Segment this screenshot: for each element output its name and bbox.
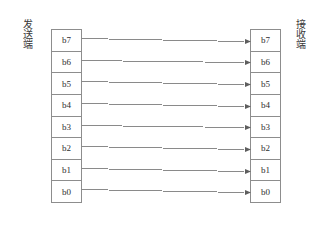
connection-line bbox=[81, 82, 244, 85]
connection-line bbox=[81, 147, 244, 150]
connection-line bbox=[81, 126, 244, 128]
receiver-bit-cell: b3 bbox=[251, 117, 280, 139]
sender-bit-cell: b5 bbox=[52, 73, 81, 95]
receiver-bit-cell: b6 bbox=[251, 52, 280, 74]
receiver-bit-cell: b4 bbox=[251, 95, 280, 117]
sender-bit-cell: b2 bbox=[52, 138, 81, 160]
diagram-canvas: 发送端 接收端 b7 b6 b5 b4 b3 b2 b1 b0 b7 b6 b5… bbox=[0, 0, 327, 234]
sender-bit-cell: b6 bbox=[52, 52, 81, 74]
sender-bit-column: b7 b6 b5 b4 b3 b2 b1 b0 bbox=[51, 29, 82, 203]
receiver-bit-cell: b7 bbox=[251, 30, 280, 52]
receiver-bit-cell: b2 bbox=[251, 138, 280, 160]
receiver-boundary-box bbox=[0, 206, 75, 234]
receiver-bit-cell: b1 bbox=[251, 160, 280, 182]
receiver-bit-column: b7 b6 b5 b4 b3 b2 b1 b0 bbox=[250, 29, 281, 203]
connection-line bbox=[81, 190, 244, 193]
connection-line bbox=[81, 61, 244, 63]
sender-bit-cell: b7 bbox=[52, 30, 81, 52]
sender-bit-cell: b1 bbox=[52, 160, 81, 182]
receiver-label: 接收端 bbox=[294, 19, 305, 49]
connection-line bbox=[81, 104, 244, 107]
sender-bit-cell: b0 bbox=[52, 181, 81, 202]
receiver-bit-cell: b0 bbox=[251, 181, 280, 202]
sender-bit-cell: b3 bbox=[52, 117, 81, 139]
receiver-bit-cell: b5 bbox=[251, 73, 280, 95]
sender-label: 发送端 bbox=[21, 19, 32, 49]
sender-bit-cell: b4 bbox=[52, 95, 81, 117]
connection-line bbox=[81, 169, 244, 172]
connection-line bbox=[81, 39, 244, 42]
